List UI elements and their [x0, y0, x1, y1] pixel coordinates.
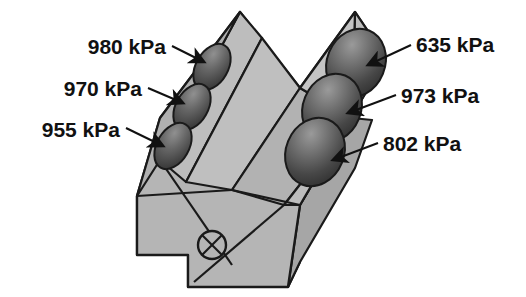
pressure-labels-left: 980 kPa 970 kPa 955 kPa — [42, 35, 167, 141]
leader-left-1 — [172, 46, 204, 62]
label-left-2: 970 kPa — [64, 77, 143, 100]
label-left-3: 955 kPa — [42, 118, 121, 141]
label-right-3: 802 kPa — [383, 132, 462, 155]
label-right-1: 635 kPa — [416, 33, 495, 56]
diagram-canvas: 980 kPa 970 kPa 955 kPa 635 kPa 973 kPa … — [0, 0, 526, 297]
engine-block-illustration: 980 kPa 970 kPa 955 kPa 635 kPa 973 kPa … — [0, 0, 526, 297]
label-left-1: 980 kPa — [88, 35, 167, 58]
crankshaft-axis-symbol — [198, 231, 226, 259]
label-right-2: 973 kPa — [401, 84, 480, 107]
